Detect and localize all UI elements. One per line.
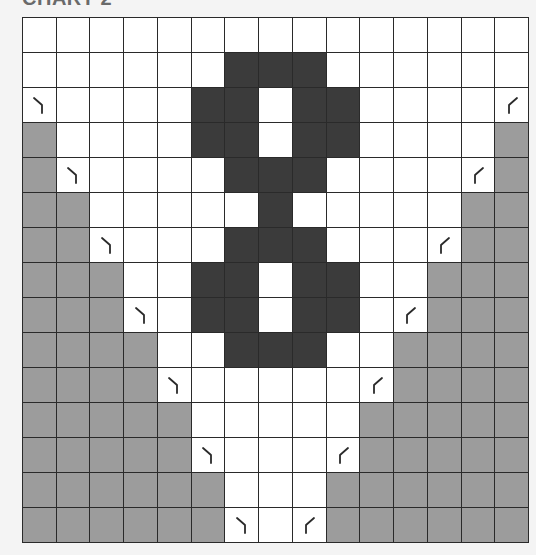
chart-cell-gray-square: [327, 473, 360, 507]
chart-cell-white-square: [428, 18, 461, 52]
left-decrease-icon: [166, 375, 182, 395]
chart-cell-dark-square: [293, 158, 326, 192]
chart-cell-gray-square: [23, 333, 56, 367]
chart-cell-white-square: [293, 438, 326, 472]
chart-cell-white-square: [192, 333, 225, 367]
chart-cell-left-leaning-decrease-symbol: [192, 438, 225, 472]
chart-cell-white-square: [90, 123, 123, 157]
chart-cell-white-square: [225, 403, 258, 437]
chart-cell-white-square: [90, 53, 123, 87]
chart-cell-gray-square: [394, 473, 427, 507]
chart-cell-white-square: [428, 123, 461, 157]
chart-cell-dark-square: [225, 53, 258, 87]
chart-cell-right-leaning-decrease-symbol: [462, 158, 495, 192]
chart-cell-white-square: [57, 53, 90, 87]
chart-cell-gray-square: [462, 228, 495, 262]
chart-cell-white-square: [124, 18, 157, 52]
chart-cell-white-square: [57, 123, 90, 157]
chart-cell-gray-square: [23, 473, 56, 507]
chart-cell-white-square: [394, 228, 427, 262]
knitting-chart-grid: [22, 17, 529, 543]
right-decrease-icon: [436, 235, 452, 255]
right-decrease-icon: [504, 95, 520, 115]
chart-cell-gray-square: [57, 368, 90, 402]
chart-cell-white-square: [225, 193, 258, 227]
chart-cell-white-square: [124, 53, 157, 87]
chart-cell-gray-square: [495, 368, 528, 402]
chart-cell-white-square: [394, 158, 427, 192]
chart-cell-gray-square: [57, 193, 90, 227]
chart-cell-gray-square: [90, 438, 123, 472]
chart-cell-white-square: [394, 53, 427, 87]
chart-cell-white-square: [259, 18, 292, 52]
chart-cell-white-square: [158, 88, 191, 122]
chart-cell-white-square: [327, 53, 360, 87]
chart-cell-right-leaning-decrease-symbol: [360, 368, 393, 402]
chart-cell-gray-square: [360, 508, 393, 542]
chart-cell-gray-square: [57, 333, 90, 367]
chart-cell-white-square: [360, 123, 393, 157]
chart-cell-gray-square: [462, 193, 495, 227]
chart-cell-white-square: [462, 18, 495, 52]
chart-cell-white-square: [124, 123, 157, 157]
chart-cell-gray-square: [495, 123, 528, 157]
chart-cell-white-square: [327, 158, 360, 192]
chart-cell-white-square: [360, 228, 393, 262]
chart-cell-gray-square: [90, 368, 123, 402]
chart-title: CHART 2: [22, 0, 112, 10]
chart-cell-gray-square: [495, 473, 528, 507]
chart-cell-gray-square: [394, 508, 427, 542]
chart-cell-gray-square: [394, 368, 427, 402]
chart-cell-dark-square: [225, 263, 258, 297]
chart-cell-gray-square: [23, 193, 56, 227]
chart-cell-gray-square: [495, 193, 528, 227]
chart-cell-dark-square: [259, 193, 292, 227]
chart-cell-white-square: [158, 18, 191, 52]
chart-cell-white-square: [192, 158, 225, 192]
chart-cell-dark-square: [192, 263, 225, 297]
chart-cell-left-leaning-decrease-symbol: [124, 298, 157, 332]
chart-cell-gray-square: [428, 368, 461, 402]
chart-cell-white-square: [360, 158, 393, 192]
chart-cell-dark-square: [259, 53, 292, 87]
chart-cell-right-leaning-decrease-symbol: [293, 508, 326, 542]
chart-cell-white-square: [158, 123, 191, 157]
chart-cell-gray-square: [124, 403, 157, 437]
chart-cell-gray-square: [90, 333, 123, 367]
chart-cell-gray-square: [495, 263, 528, 297]
chart-cell-white-square: [158, 263, 191, 297]
chart-cell-white-square: [259, 123, 292, 157]
chart-cell-dark-square: [293, 123, 326, 157]
chart-cell-gray-square: [462, 298, 495, 332]
chart-cell-white-square: [462, 53, 495, 87]
chart-cell-dark-square: [225, 228, 258, 262]
chart-cell-white-square: [192, 228, 225, 262]
chart-cell-white-square: [124, 263, 157, 297]
chart-cell-gray-square: [23, 508, 56, 542]
chart-cell-white-square: [360, 193, 393, 227]
chart-cell-white-square: [495, 53, 528, 87]
chart-cell-right-leaning-decrease-symbol: [394, 298, 427, 332]
chart-cell-gray-square: [495, 298, 528, 332]
chart-cell-white-square: [90, 193, 123, 227]
chart-cell-white-square: [293, 403, 326, 437]
chart-cell-gray-square: [394, 438, 427, 472]
chart-cell-white-square: [259, 438, 292, 472]
left-decrease-icon: [65, 165, 81, 185]
chart-cell-gray-square: [23, 298, 56, 332]
chart-cell-dark-square: [259, 158, 292, 192]
chart-cell-dark-square: [259, 333, 292, 367]
chart-cell-gray-square: [23, 123, 56, 157]
chart-cell-gray-square: [158, 508, 191, 542]
chart-cell-dark-square: [327, 263, 360, 297]
chart-cell-gray-square: [360, 438, 393, 472]
chart-cell-gray-square: [90, 298, 123, 332]
chart-cell-dark-square: [293, 263, 326, 297]
chart-cell-dark-square: [192, 298, 225, 332]
chart-cell-gray-square: [428, 263, 461, 297]
chart-cell-gray-square: [462, 263, 495, 297]
chart-cell-white-square: [158, 333, 191, 367]
chart-cell-gray-square: [124, 508, 157, 542]
chart-cell-left-leaning-decrease-symbol: [23, 88, 56, 122]
chart-cell-white-square: [327, 193, 360, 227]
